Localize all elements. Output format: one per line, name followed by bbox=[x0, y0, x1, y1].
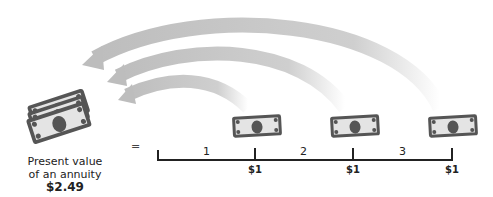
money-stack-icon bbox=[24, 90, 92, 142]
equals-sign: = bbox=[131, 140, 140, 153]
bill-icon-1 bbox=[234, 116, 281, 136]
period-label-1: 1 bbox=[203, 145, 210, 158]
period-label-2: 2 bbox=[300, 145, 307, 158]
present-value-line1: Present value bbox=[20, 155, 110, 168]
payment-label-2: $1 bbox=[346, 164, 360, 175]
present-value-caption: Present value of an annuity $2.49 bbox=[20, 155, 110, 194]
payment-label-3: $1 bbox=[445, 164, 459, 175]
arrow-period-2 bbox=[107, 54, 345, 108]
bill-icon-2 bbox=[332, 116, 379, 136]
bill-icon-3 bbox=[430, 116, 477, 136]
arrow-period-1 bbox=[118, 81, 248, 108]
period-label-3: 3 bbox=[399, 145, 406, 158]
payment-label-1: $1 bbox=[248, 164, 262, 175]
present-value-amount: $2.49 bbox=[46, 180, 84, 194]
annuity-diagram: = 1 2 3 $1 $1 $1 Present value of an ann… bbox=[0, 0, 493, 197]
